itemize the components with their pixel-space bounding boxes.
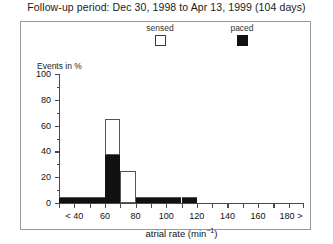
x-tick-90 bbox=[151, 204, 152, 208]
bar-paced-lt40 bbox=[59, 198, 74, 203]
y-tick-minor-70 bbox=[57, 113, 60, 114]
bar-paced-90-100 bbox=[151, 198, 166, 203]
y-tick-label-0: 0 bbox=[27, 199, 51, 208]
bar-paced-40-50 bbox=[74, 198, 89, 203]
y-tick-minor-50 bbox=[57, 139, 60, 140]
y-tick-80 bbox=[55, 100, 59, 101]
x-tick-160 bbox=[258, 204, 259, 208]
x-tick-50 bbox=[90, 204, 91, 208]
x-tick-80 bbox=[136, 204, 137, 208]
y-tick-label-100: 100 bbox=[27, 70, 51, 79]
y-tick-minor-10 bbox=[57, 190, 60, 191]
axes: 100 80 60 40 20 0 < 40 60 80 100 120 140… bbox=[59, 74, 304, 203]
y-tick-60 bbox=[55, 126, 59, 127]
x-tick-40 bbox=[74, 204, 75, 208]
y-tick-minor-90 bbox=[57, 87, 60, 88]
x-tick-130 bbox=[212, 204, 213, 208]
y-tick-label-20: 20 bbox=[27, 173, 51, 182]
bar-paced-50-60 bbox=[90, 198, 105, 203]
x-tick-100 bbox=[166, 204, 167, 208]
x-tick-140 bbox=[227, 204, 228, 208]
plot-area: Events in % 100 80 60 40 20 0 bbox=[20, 21, 311, 230]
x-tick-120 bbox=[197, 204, 198, 208]
x-axis-label-main: atrial rate (min bbox=[146, 228, 207, 239]
y-tick-minor-30 bbox=[57, 164, 60, 165]
y-tick-100 bbox=[55, 74, 59, 75]
bar-paced-100-110 bbox=[166, 198, 181, 203]
x-tick-label-100: 100 bbox=[153, 211, 179, 221]
bar-sensed-60-70 bbox=[105, 119, 120, 155]
bar-paced-80-90 bbox=[136, 198, 151, 203]
y-tick-label-60: 60 bbox=[27, 122, 51, 131]
bar-paced-60-70 bbox=[105, 155, 120, 203]
x-tick-180 bbox=[289, 204, 290, 208]
bar-paced-110-120 bbox=[182, 198, 197, 203]
x-tick-label-60: 60 bbox=[92, 211, 118, 221]
x-tick-label-120: 120 bbox=[184, 211, 210, 221]
y-axis-line bbox=[59, 74, 60, 203]
x-tick-110 bbox=[182, 204, 183, 208]
y-tick-label-40: 40 bbox=[27, 147, 51, 156]
x-tick-190 bbox=[303, 204, 304, 208]
y-tick-40 bbox=[55, 151, 59, 152]
bar-sensed-70-80 bbox=[120, 171, 135, 203]
x-tick-170 bbox=[273, 204, 274, 208]
x-tick-label-140: 140 bbox=[214, 211, 240, 221]
x-tick-150 bbox=[243, 204, 244, 208]
x-tick-label-80: 80 bbox=[123, 211, 149, 221]
x-tick-70 bbox=[120, 204, 121, 208]
x-tick-60 bbox=[105, 204, 106, 208]
page-title: Follow-up period: Dec 30, 1998 to Apr 13… bbox=[0, 1, 333, 13]
x-axis-label: atrial rate (min−1) bbox=[59, 227, 304, 239]
x-axis-label-close: ) bbox=[214, 228, 217, 239]
x-tick-label-180: 180 > bbox=[275, 211, 307, 221]
y-tick-20 bbox=[55, 177, 59, 178]
x-tick-30 bbox=[59, 204, 60, 208]
y-tick-label-80: 80 bbox=[27, 96, 51, 105]
x-tick-label-160: 160 bbox=[245, 211, 271, 221]
x-tick-label-lt40: < 40 bbox=[61, 211, 87, 221]
